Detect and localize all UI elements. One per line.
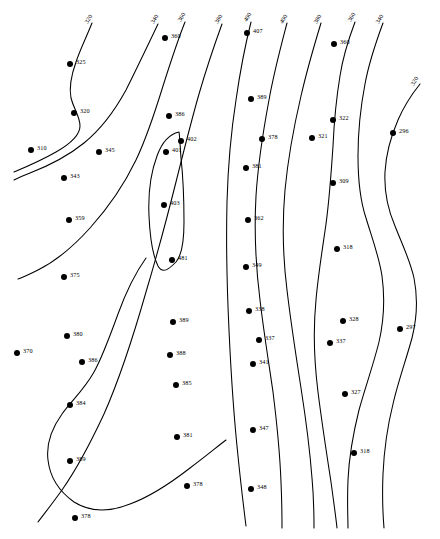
contour-value-label: 320 <box>409 75 419 86</box>
contour-value-label: 360 <box>346 11 356 22</box>
contour-value-label: 400 <box>278 13 288 24</box>
contour-value-label: 320 <box>83 13 93 24</box>
contour-value-label: 340 <box>149 13 159 24</box>
contour-value-label: 380 <box>213 13 223 24</box>
contour-labels-layer: 320340360380400400380360340320 <box>0 0 440 539</box>
contour-value-label: 340 <box>374 13 384 24</box>
contour-map-figure: 3253203103453433593753703803863843893783… <box>0 0 440 539</box>
contour-value-label: 360 <box>176 11 186 22</box>
contour-value-label: 380 <box>312 13 322 24</box>
contour-value-label: 400 <box>242 11 252 22</box>
